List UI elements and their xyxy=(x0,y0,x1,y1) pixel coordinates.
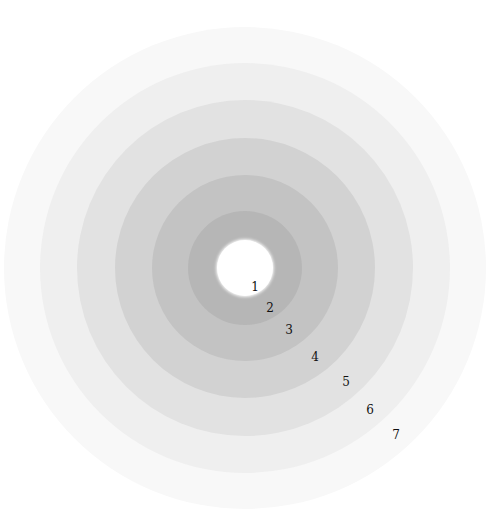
ring-label-1: 1 xyxy=(251,281,259,293)
ring-label-7: 7 xyxy=(392,429,400,441)
ring-label-5: 5 xyxy=(342,376,350,388)
ring-level-1 xyxy=(217,240,273,296)
ring-label-2: 2 xyxy=(266,302,274,314)
ring-label-3: 3 xyxy=(285,324,293,336)
ring-label-6: 6 xyxy=(366,404,374,416)
ring-label-4: 4 xyxy=(311,351,319,363)
